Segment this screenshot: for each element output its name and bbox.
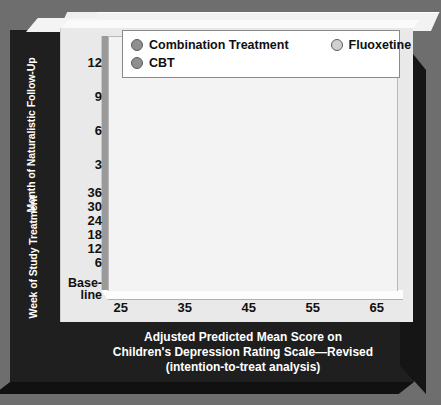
y-axis-tick-12-2: 12 [58, 242, 102, 255]
x-axis-tick-45: 45 [242, 300, 256, 315]
y-axis-tick-baseline-line2: line [58, 289, 102, 301]
circle-marker-icon [331, 39, 343, 51]
y-axis-tick-18-3: 18 [58, 228, 102, 241]
x-axis-caption-line-3: (intention-to-treat analysis) [84, 360, 402, 375]
y-axis-title-treatment: Week of Study Treatment [27, 187, 53, 327]
y-axis-tick-12-10: 12 [58, 56, 102, 69]
circle-marker-icon [131, 57, 143, 69]
y-axis-tick-labels: 1296336302418126Base-line [56, 36, 102, 298]
y-axis-tick-9-9: 9 [58, 90, 102, 103]
y-axis-tick-24-4: 24 [58, 214, 102, 227]
bottom-dark-bevel [0, 382, 414, 394]
x-axis-tick-65: 65 [370, 300, 384, 315]
y-axis-tick-30-5: 30 [58, 200, 102, 213]
y-axis-tick-3-7: 3 [58, 158, 102, 171]
legend-row-1: Combination Treatment Fluoxetine [131, 36, 391, 54]
legend-item-cbt: CBT [131, 56, 175, 70]
legend-item-fluoxetine: Fluoxetine [331, 38, 412, 52]
legend-label-fluoxetine: Fluoxetine [349, 38, 412, 52]
x-axis-tick-25: 25 [114, 300, 128, 315]
y-axis-tick-6-1: 6 [58, 256, 102, 269]
figure-root: Month of Naturalistic Follow-Up Week of … [0, 0, 441, 405]
x-axis-tick-35: 35 [178, 300, 192, 315]
x-axis-caption-line-2: Children's Depression Rating Scale—Revis… [84, 345, 402, 360]
x-axis-tick-55: 55 [306, 300, 320, 315]
y-axis-tick-36-6: 36 [58, 186, 102, 199]
circle-marker-icon [131, 39, 143, 51]
x-axis-caption-line-1: Adjusted Predicted Mean Score on [84, 330, 402, 345]
x-axis-shelf [101, 290, 403, 300]
x-axis-tick-labels: 2535455565 [108, 300, 408, 320]
y-axis-tick-6-8: 6 [58, 124, 102, 137]
chart-legend: Combination Treatment Fluoxetine CBT [122, 30, 400, 78]
legend-item-combination-treatment: Combination Treatment [131, 38, 289, 52]
x-axis-caption: Adjusted Predicted Mean Score on Childre… [84, 330, 402, 375]
legend-label-cbt: CBT [149, 56, 175, 70]
legend-row-2: CBT [131, 54, 391, 72]
legend-label-combination-treatment: Combination Treatment [149, 38, 289, 52]
